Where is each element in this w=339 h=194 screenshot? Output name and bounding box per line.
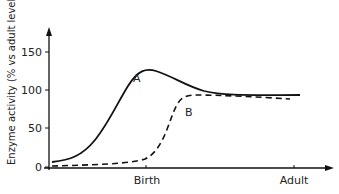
ytick-50: 50 bbox=[28, 122, 42, 135]
xtick-birth: Birth bbox=[134, 174, 160, 187]
y-axis-label: Enzyme activity (% vs adult level) bbox=[6, 0, 17, 165]
xtick-adult: Adult bbox=[280, 174, 309, 187]
curve-b bbox=[52, 95, 290, 166]
y-axis-arrow-icon bbox=[46, 27, 52, 36]
curve-b-label: B bbox=[185, 106, 193, 119]
curve-a-label: A bbox=[133, 72, 141, 85]
ytick-150: 150 bbox=[21, 46, 42, 59]
x-axis-arrow-icon bbox=[325, 165, 334, 171]
enzyme-activity-chart: 0 50 100 150 Birth Adult Enzyme activity… bbox=[0, 0, 339, 194]
ytick-0: 0 bbox=[35, 161, 42, 174]
curve-a bbox=[52, 70, 300, 162]
ytick-100: 100 bbox=[21, 84, 42, 97]
